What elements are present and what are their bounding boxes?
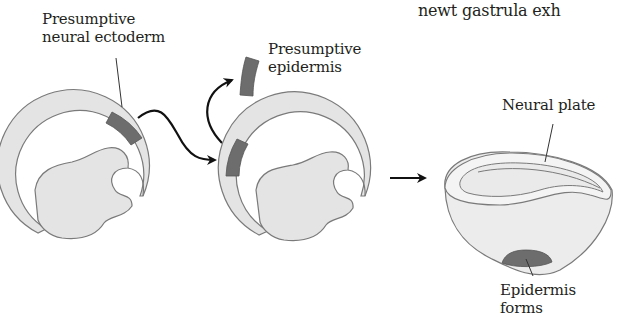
- donor-gastrula: [0, 90, 149, 239]
- label-line-2: epidermis: [268, 58, 361, 76]
- transplant-arrow: [138, 111, 215, 160]
- label-line-2: forms: [500, 299, 576, 317]
- host-gastrula: [218, 92, 370, 241]
- label-line-2: neural ectoderm: [42, 28, 165, 46]
- neurula: [445, 152, 613, 275]
- label-epidermis-forms: Epidermis forms: [500, 281, 576, 317]
- label-line-1: Presumptive: [42, 10, 165, 28]
- transplant-diagram: newt gastrula exh Presumptive neural ect…: [0, 0, 622, 335]
- label-line-1: Epidermis: [500, 281, 576, 299]
- label-presumptive-epidermis: Presumptive epidermis: [268, 40, 361, 76]
- removed-epidermis-piece: [240, 57, 259, 96]
- label-neural-plate: Neural plate: [502, 96, 595, 114]
- leader-line-neural-ectoderm: [116, 58, 122, 107]
- label-line-1: Presumptive: [268, 40, 361, 58]
- label-presumptive-neural-ectoderm: Presumptive neural ectoderm: [42, 10, 165, 46]
- header-text-fragment: newt gastrula exh: [418, 2, 561, 20]
